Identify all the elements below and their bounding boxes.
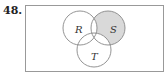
label-s: S bbox=[110, 24, 117, 35]
label-r: R bbox=[74, 24, 83, 35]
venn-diagram: R S T bbox=[0, 0, 165, 72]
